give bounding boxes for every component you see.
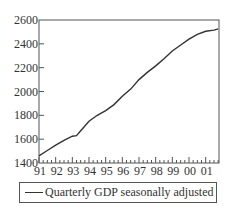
x-tick-label: 95 [101,164,113,178]
plot-frame [39,20,219,163]
x-tick-label: 91 [34,164,46,178]
y-tick-label: 1600 [14,132,38,146]
x-tick-label: 98 [151,164,163,178]
x-tick-label: 93 [67,164,79,178]
gdp-line [39,29,218,156]
legend-line-icon [25,192,43,193]
y-tick-label: 2000 [14,85,38,99]
y-tick-label: 1800 [14,108,38,122]
legend: Quarterly GDP seasonally adjusted [19,182,217,203]
x-tick-label: 96 [117,164,129,178]
y-tick-label: 2400 [14,37,38,51]
x-axis: 9192939495969798990001 [34,157,218,178]
x-tick-label: 01 [201,164,213,178]
y-tick-label: 2200 [14,61,38,75]
x-tick-label: 00 [184,164,196,178]
line-chart: 1400160018002000220024002600 91929394959… [0,0,234,182]
x-tick-label: 97 [134,164,146,178]
x-tick-label: 92 [51,164,63,178]
legend-label: Quarterly GDP seasonally adjusted [45,185,214,200]
y-tick-label: 2600 [14,13,38,27]
x-tick-label: 99 [167,164,179,178]
x-tick-label: 94 [84,164,96,178]
